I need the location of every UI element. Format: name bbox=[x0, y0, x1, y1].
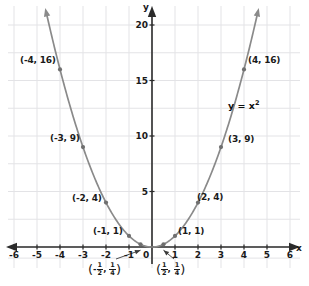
y-tick-label-10: 10 bbox=[128, 131, 148, 141]
point-label-neg2-4: (-2, 4) bbox=[72, 193, 102, 203]
point-label-1-1: (1, 1) bbox=[178, 226, 204, 236]
equation-exponent: 2 bbox=[255, 99, 260, 107]
close-paren: ) bbox=[180, 263, 185, 276]
point-label-3-9: (3, 9) bbox=[228, 134, 254, 144]
point-label-4-16: (4, 16) bbox=[248, 55, 280, 65]
x-tick-label-5: 5 bbox=[258, 250, 276, 260]
point-label-2-4: (2, 4) bbox=[197, 192, 223, 202]
equation-text: y = x bbox=[228, 100, 255, 111]
x-tick-label-2: 2 bbox=[189, 250, 207, 260]
origin-label: 0 bbox=[143, 250, 149, 260]
x-tick-label-neg5: -5 bbox=[28, 250, 46, 260]
x-tick-label-neg4: -4 bbox=[51, 250, 69, 260]
x-tick-label-6: 6 bbox=[281, 250, 299, 260]
x-tick-label-neg2: -2 bbox=[97, 250, 115, 260]
parabola-plot bbox=[0, 0, 309, 286]
y-tick-label-5: 5 bbox=[128, 187, 148, 197]
x-tick-label-neg3: -3 bbox=[74, 250, 92, 260]
y-axis-label: y bbox=[143, 2, 149, 12]
x-tick-label-1: 1 bbox=[166, 250, 184, 260]
x-tick-label-4: 4 bbox=[235, 250, 253, 260]
fraction-label-positive-half: (12, 14) bbox=[156, 262, 185, 276]
point-label-neg1-1: (-1, 1) bbox=[93, 226, 123, 236]
x-tick-label-neg1: -1 bbox=[120, 250, 138, 260]
y-tick-label-15: 15 bbox=[128, 76, 148, 86]
point-label-neg3-9: (-3, 9) bbox=[50, 133, 80, 143]
point-label-neg4-16: (-4, 16) bbox=[20, 55, 56, 65]
equation-label: y = x2 bbox=[228, 99, 259, 111]
close-paren: ) bbox=[116, 263, 121, 276]
graph-canvas: (-4, 16) (-3, 9) (-2, 4) (-1, 1) (1, 1) … bbox=[0, 0, 309, 286]
x-tick-label-neg6: -6 bbox=[5, 250, 23, 260]
fraction-label-negative-half: (-12, 14) bbox=[88, 262, 121, 276]
x-tick-label-3: 3 bbox=[212, 250, 230, 260]
y-tick-label-20: 20 bbox=[128, 20, 148, 30]
